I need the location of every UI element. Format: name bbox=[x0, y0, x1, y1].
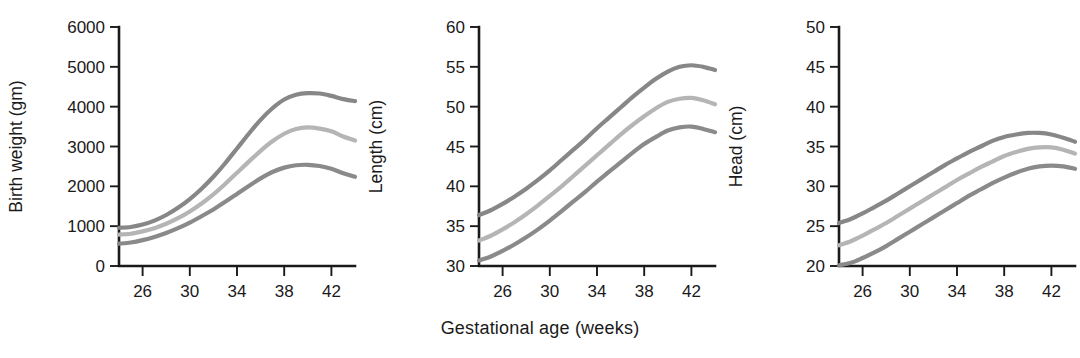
y-tick-label: 25 bbox=[806, 217, 825, 236]
x-tick-label: 30 bbox=[900, 282, 919, 301]
y-tick-label: 2000 bbox=[67, 177, 105, 196]
growth-charts-figure: 01000200030004000500060002630343842Birth… bbox=[0, 0, 1080, 358]
series-curve bbox=[839, 147, 1075, 245]
y-tick-label: 4000 bbox=[67, 98, 105, 117]
panel0-labels: 01000200030004000500060002630343842Birth… bbox=[6, 18, 341, 301]
x-tick-label: 30 bbox=[180, 282, 199, 301]
panel1-labels: 303540455055602630343842Length (cm) bbox=[366, 18, 701, 301]
x-tick-label: 26 bbox=[853, 282, 872, 301]
x-tick-label: 38 bbox=[995, 282, 1014, 301]
panel0-curves bbox=[119, 93, 355, 244]
x-tick-label: 34 bbox=[948, 282, 967, 301]
birth-weight-plot: 01000200030004000500060002630343842Birth… bbox=[0, 0, 360, 358]
y-tick-label: 50 bbox=[806, 18, 825, 37]
y-tick-label: 40 bbox=[446, 177, 465, 196]
panel2-curves bbox=[839, 133, 1075, 265]
y-tick-label: 45 bbox=[446, 138, 465, 157]
x-tick-label: 34 bbox=[588, 282, 607, 301]
y-tick-label: 60 bbox=[446, 18, 465, 37]
y-tick-label: 20 bbox=[806, 257, 825, 276]
x-tick-label: 30 bbox=[540, 282, 559, 301]
series-curve bbox=[119, 165, 355, 244]
y-axis-title: Length (cm) bbox=[366, 100, 386, 193]
chart-panel-head: 202530354045502630343842Head (cm) bbox=[720, 0, 1080, 358]
axis-spine bbox=[479, 27, 715, 266]
y-tick-label: 1000 bbox=[67, 217, 105, 236]
y-tick-label: 6000 bbox=[67, 18, 105, 37]
series-curve bbox=[479, 126, 715, 260]
y-tick-label: 35 bbox=[446, 217, 465, 236]
x-tick-label: 42 bbox=[1042, 282, 1061, 301]
y-tick-label: 35 bbox=[806, 138, 825, 157]
x-tick-label: 38 bbox=[275, 282, 294, 301]
y-tick-label: 50 bbox=[446, 98, 465, 117]
series-curve bbox=[479, 65, 715, 215]
y-tick-label: 0 bbox=[96, 257, 105, 276]
y-tick-label: 45 bbox=[806, 58, 825, 77]
shared-x-axis-title: Gestational age (weeks) bbox=[0, 318, 1080, 339]
y-tick-label: 30 bbox=[806, 177, 825, 196]
x-tick-label: 38 bbox=[635, 282, 654, 301]
panel2-axes bbox=[830, 27, 1075, 276]
series-curve bbox=[479, 98, 715, 241]
panel1-curves bbox=[479, 65, 715, 260]
panel2-labels: 202530354045502630343842Head (cm) bbox=[726, 18, 1061, 301]
chart-panel-birth-weight: 01000200030004000500060002630343842Birth… bbox=[0, 0, 360, 358]
x-tick-label: 42 bbox=[682, 282, 701, 301]
x-axis-label-text: Gestational age (weeks) bbox=[441, 318, 640, 338]
y-axis-title: Birth weight (gm) bbox=[6, 80, 26, 212]
chart-panel-length: 303540455055602630343842Length (cm) bbox=[360, 0, 720, 358]
series-curve bbox=[119, 93, 355, 228]
y-tick-label: 40 bbox=[806, 98, 825, 117]
panel1-axes bbox=[470, 27, 715, 276]
y-tick-label: 55 bbox=[446, 58, 465, 77]
x-tick-label: 34 bbox=[228, 282, 247, 301]
head-plot: 202530354045502630343842Head (cm) bbox=[720, 0, 1080, 358]
x-tick-label: 26 bbox=[133, 282, 152, 301]
x-tick-label: 42 bbox=[322, 282, 341, 301]
y-tick-label: 3000 bbox=[67, 138, 105, 157]
x-tick-label: 26 bbox=[493, 282, 512, 301]
y-axis-title: Head (cm) bbox=[726, 106, 746, 188]
length-plot: 303540455055602630343842Length (cm) bbox=[360, 0, 720, 358]
y-tick-label: 30 bbox=[446, 257, 465, 276]
y-tick-label: 5000 bbox=[67, 58, 105, 77]
